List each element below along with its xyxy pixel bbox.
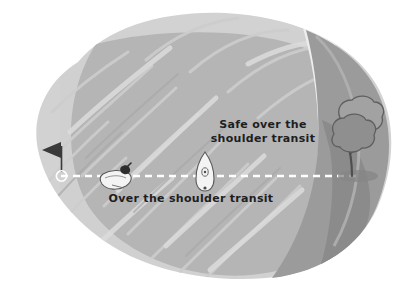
- tree-shadow: [338, 170, 378, 182]
- label-safe-line2: shoulder transit: [211, 132, 315, 145]
- label-over-transit: Over the shoulder transit: [103, 192, 279, 206]
- label-safe-transit: Safe over the shoulder transit: [202, 118, 324, 146]
- label-safe-line1: Safe over the: [219, 118, 306, 131]
- transit-diagram: Safe over the shoulder transit Over the …: [0, 0, 409, 287]
